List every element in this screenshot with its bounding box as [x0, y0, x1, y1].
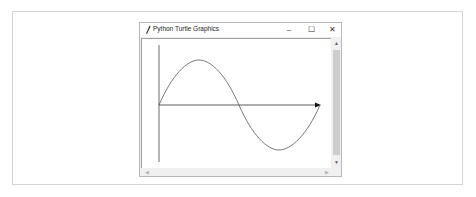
- scroll-left-arrow-icon[interactable]: ◀: [142, 169, 151, 175]
- sine-drawing: [142, 39, 332, 169]
- scroll-down-arrow-icon[interactable]: ▼: [332, 159, 341, 165]
- vertical-scroll-thumb[interactable]: [333, 50, 340, 155]
- turtle-window: Python Turtle Graphics – ☐ ✕ ▲ ▼ ◀ ▶: [139, 22, 342, 177]
- turtle-arrow-icon: [315, 103, 321, 108]
- scroll-up-arrow-icon[interactable]: ▲: [332, 40, 341, 46]
- turtle-canvas[interactable]: [141, 38, 331, 168]
- feather-icon: [145, 25, 151, 35]
- scroll-right-arrow-icon[interactable]: ▶: [322, 169, 331, 175]
- horizontal-scrollbar[interactable]: ◀ ▶: [141, 168, 332, 176]
- window-title: Python Turtle Graphics: [153, 25, 219, 32]
- vertical-scrollbar[interactable]: ▲ ▼: [332, 38, 341, 168]
- close-button[interactable]: ✕: [321, 23, 343, 37]
- title-bar[interactable]: Python Turtle Graphics – ☐ ✕: [140, 23, 341, 37]
- minimize-button[interactable]: –: [278, 23, 300, 37]
- maximize-button[interactable]: ☐: [300, 23, 322, 37]
